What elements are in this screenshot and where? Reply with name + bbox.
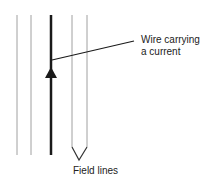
field-lines-label: Field lines bbox=[73, 165, 118, 177]
field-lines-pointer bbox=[72, 147, 87, 160]
current-arrow-icon bbox=[45, 67, 57, 78]
wire-leader-line bbox=[52, 41, 134, 60]
wire-label: Wire carrying a current bbox=[141, 34, 200, 58]
wire-label-line-2: a current bbox=[141, 46, 200, 58]
wire-label-line-1: Wire carrying bbox=[141, 34, 200, 46]
magnetic-field-diagram: Wire carrying a current Field lines bbox=[0, 0, 204, 188]
diagram-canvas bbox=[0, 0, 204, 188]
